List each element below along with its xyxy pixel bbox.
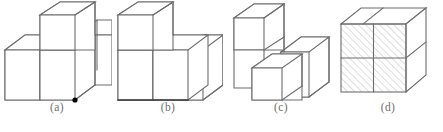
figure-option-b[interactable]: (b) [113, 0, 223, 132]
cube-d-front-hatched [341, 24, 406, 92]
figure-c-caption: (c) [226, 101, 336, 113]
cube-b-top-left [118, 2, 173, 50]
figure-b-drawing [113, 0, 223, 105]
figure-option-a[interactable]: .ln { stroke:#6d6d6d; stroke-width:1.1; … [2, 0, 112, 132]
figure-b-caption: (b) [113, 101, 223, 113]
cube-a-top [40, 2, 95, 50]
figure-a-caption: (a) [2, 101, 112, 113]
figure-d-drawing [333, 0, 443, 105]
figure-a-drawing: .ln { stroke:#6d6d6d; stroke-width:1.1; … [2, 0, 112, 105]
figure-c-drawing [226, 0, 336, 105]
figure-option-c[interactable]: (c) [226, 0, 336, 132]
figure-d-caption: (d) [333, 101, 443, 113]
figure-panel: .ln { stroke:#6d6d6d; stroke-width:1.1; … [0, 0, 443, 132]
figure-option-d[interactable]: (d) [333, 0, 443, 132]
cube-c-top-left [234, 4, 284, 50]
